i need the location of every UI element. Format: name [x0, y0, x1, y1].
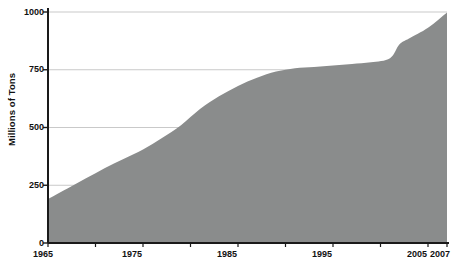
area-chart: Millions of Tons 1000 750 500 250 0 1965…	[0, 0, 461, 270]
plot-area	[0, 0, 461, 270]
